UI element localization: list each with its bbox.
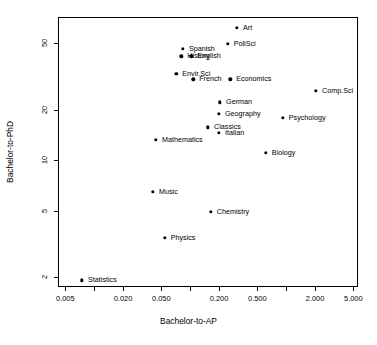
x-axis-tick	[123, 287, 124, 291]
data-point-label: Art	[243, 24, 252, 31]
x-axis-tick	[286, 287, 287, 291]
y-axis-tick-label: 5	[40, 209, 49, 213]
data-point	[226, 42, 229, 45]
data-point	[163, 236, 166, 239]
plot-box: ArtPoliSciSpanishHistoryEnglishEnvir.Sci…	[58, 17, 358, 287]
x-axis-tick	[257, 287, 258, 291]
x-axis-tick-label: 0.050	[152, 294, 171, 303]
y-axis-label: Bachelor-to-PhD	[5, 121, 15, 183]
y-axis-tick	[54, 43, 58, 44]
data-point-label: English	[197, 53, 221, 60]
x-axis-tick	[219, 287, 220, 291]
data-point-label: Italian	[225, 129, 244, 136]
y-axis-tick	[54, 110, 58, 111]
data-point	[235, 26, 238, 29]
data-point	[281, 116, 284, 119]
y-axis-tick-label: 2	[40, 275, 49, 279]
data-point	[192, 78, 195, 81]
y-axis-tick	[54, 211, 58, 212]
data-point	[180, 55, 183, 58]
x-axis-tick-label: 0.200	[210, 294, 229, 303]
data-point	[218, 101, 221, 104]
data-point-label: Geography	[225, 110, 261, 117]
data-point-label: Psychology	[289, 114, 326, 121]
data-point	[209, 210, 212, 213]
x-axis-label: Bachelor-to-AP	[0, 316, 377, 326]
x-axis-tick-label: 0.005	[56, 294, 75, 303]
data-point	[217, 112, 220, 115]
data-point-label: French	[199, 76, 221, 83]
data-point-label: Comp.Sci	[322, 87, 353, 94]
data-point	[154, 138, 157, 141]
data-point	[181, 47, 184, 50]
data-point	[217, 131, 220, 134]
scatter-plot-figure: ArtPoliSciSpanishHistoryEnglishEnvir.Sci…	[0, 0, 377, 345]
data-point	[175, 72, 178, 75]
plot-area: ArtPoliSciSpanishHistoryEnglishEnvir.Sci…	[59, 18, 357, 286]
y-axis-tick-label: 10	[40, 156, 49, 164]
data-point	[151, 190, 154, 193]
data-point	[80, 278, 83, 281]
x-axis-tick	[94, 287, 95, 291]
y-axis-tick-label: 50	[40, 39, 49, 47]
data-point-label: Economics	[236, 76, 271, 83]
x-axis-tick	[161, 287, 162, 291]
data-point-label: Statistics	[88, 277, 117, 284]
data-point	[206, 126, 209, 129]
x-axis-tick-label: 2.000	[306, 294, 325, 303]
x-axis-tick	[353, 287, 354, 291]
x-axis-tick	[190, 287, 191, 291]
data-point-label: PoliSci	[234, 40, 256, 47]
data-point-label: Biology	[272, 149, 296, 156]
data-point	[228, 78, 231, 81]
data-point	[314, 89, 317, 92]
data-point-label: Mathematics	[162, 136, 203, 143]
data-point-label: Music	[159, 188, 178, 195]
y-axis-tick-label: 20	[40, 106, 49, 114]
x-axis-tick	[65, 287, 66, 291]
y-axis-tick	[54, 277, 58, 278]
x-axis-tick-label: 5.000	[344, 294, 363, 303]
data-point	[264, 151, 267, 154]
x-axis-tick-label: 0.020	[114, 294, 133, 303]
data-point-label: Chemistry	[217, 208, 249, 215]
data-point-label: German	[226, 99, 252, 106]
data-point-label: Physics	[171, 234, 196, 241]
x-axis-tick	[315, 287, 316, 291]
y-axis-tick	[54, 160, 58, 161]
x-axis-tick-label: 0.500	[248, 294, 267, 303]
